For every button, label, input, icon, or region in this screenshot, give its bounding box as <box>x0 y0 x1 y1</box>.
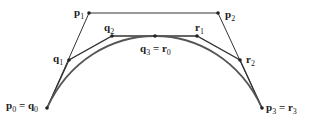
label-q2: q2 <box>104 22 114 36</box>
diagram-canvas <box>0 0 310 118</box>
label-p0-q0: p0 = q0 <box>6 100 38 114</box>
label-q3-r0: q3 = r0 <box>140 43 171 57</box>
label-p1: p1 <box>74 7 84 21</box>
label-r2: r2 <box>246 54 255 68</box>
control-points <box>45 11 264 110</box>
label-q1: q1 <box>53 53 63 67</box>
bezier-diagram: p0 = q0 p1 p2 p3 = r3 q1 q2 q3 = r0 r1 r… <box>0 0 310 118</box>
control-polygon <box>47 13 262 108</box>
label-p3-r3: p3 = r3 <box>266 102 297 116</box>
label-p2: p2 <box>225 9 235 23</box>
label-r1: r1 <box>195 22 204 36</box>
